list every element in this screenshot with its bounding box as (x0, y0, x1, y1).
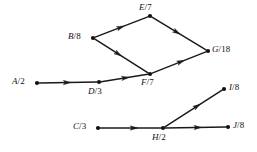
edge-b-e (95, 17, 148, 37)
edge-b-f (95, 39, 148, 73)
node-label-b: B/8 (68, 32, 81, 41)
node-weight: 2 (20, 76, 25, 86)
node-weight: 8 (76, 31, 81, 41)
node-label-j: J/8 (233, 121, 244, 130)
node-name: D (88, 86, 95, 96)
node-weight: 2 (161, 132, 166, 142)
node-label-f: F/7 (141, 78, 154, 87)
node-weight: 18 (221, 44, 230, 54)
node-label-i: I/8 (229, 83, 239, 92)
node-name: H (152, 132, 159, 142)
arrow-head-icon (173, 28, 181, 34)
graph-diagram: A/2B/8C/3D/3E/7F/7G/18H/2I/8J/8 (0, 0, 257, 152)
node-weight: 7 (147, 2, 152, 12)
node-label-h: H/2 (152, 133, 166, 142)
node-dot-d[interactable] (97, 80, 101, 84)
edge-c-h (100, 126, 160, 130)
node-label-d: D/3 (88, 87, 102, 96)
edge-e-g (152, 17, 206, 50)
node-weight: 3 (82, 121, 87, 131)
node-label-e: E/7 (139, 3, 152, 12)
node-label-c: C/3 (73, 122, 86, 131)
node-dot-e[interactable] (148, 14, 152, 18)
node-dot-i[interactable] (222, 87, 226, 91)
nodes-layer (35, 14, 230, 130)
edge-a-d (39, 80, 96, 84)
arrow-head-icon (114, 50, 122, 56)
node-dot-g[interactable] (206, 49, 210, 53)
node-weight: 8 (240, 120, 245, 130)
edge-h-i (165, 90, 222, 127)
node-weight: 3 (97, 86, 102, 96)
node-dot-b[interactable] (91, 36, 95, 40)
node-label-g: G/18 (212, 45, 230, 54)
edge-f-g (152, 52, 206, 73)
node-dot-c[interactable] (96, 126, 100, 130)
node-dot-j[interactable] (226, 125, 230, 129)
node-name: G (212, 44, 219, 54)
node-dot-h[interactable] (161, 126, 165, 130)
node-dot-a[interactable] (35, 81, 39, 85)
node-label-a: A/2 (12, 77, 25, 86)
arrow-head-icon (193, 104, 201, 110)
graph-canvas (0, 0, 257, 152)
edge-line (165, 90, 222, 127)
node-weight: 7 (149, 77, 154, 87)
edge-h-j (165, 125, 225, 129)
node-dot-f[interactable] (148, 72, 152, 76)
node-weight: 8 (235, 82, 240, 92)
